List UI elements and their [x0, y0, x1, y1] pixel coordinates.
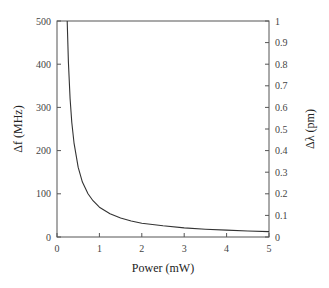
data-line	[67, 21, 269, 232]
y-right-tick-label: 0.6	[275, 102, 288, 113]
y-tick-label: 300	[36, 102, 51, 113]
y-right-axis-title: Δλ (pm)	[303, 109, 317, 149]
y-right-tick-label: 1	[275, 16, 280, 27]
y-right-tick-label: 0	[275, 232, 280, 243]
y-right-tick-label: 0.8	[275, 59, 288, 70]
x-tick-label: 1	[97, 243, 102, 254]
y-axis-title: Δf (MHz)	[11, 105, 25, 152]
y-tick-label: 0	[46, 232, 51, 243]
y-right-tick-label: 0.3	[275, 167, 288, 178]
plot-frame	[57, 21, 269, 237]
x-tick-label: 0	[55, 243, 60, 254]
chart: 012345010020030040050000.10.20.30.40.50.…	[0, 0, 329, 288]
y-right-tick-label: 0.1	[275, 210, 288, 221]
y-tick-label: 100	[36, 188, 51, 199]
y-tick-label: 400	[36, 59, 51, 70]
x-axis-title: Power (mW)	[132, 261, 194, 275]
y-right-tick-label: 0.2	[275, 188, 288, 199]
y-right-tick-label: 0.5	[275, 124, 288, 135]
y-right-tick-label: 0.4	[275, 145, 288, 156]
x-tick-label: 4	[224, 243, 229, 254]
y-tick-label: 200	[36, 145, 51, 156]
x-tick-label: 5	[267, 243, 272, 254]
y-tick-label: 500	[36, 16, 51, 27]
x-tick-label: 3	[182, 243, 187, 254]
y-right-tick-label: 0.9	[275, 37, 288, 48]
x-tick-label: 2	[139, 243, 144, 254]
y-right-tick-label: 0.7	[275, 80, 288, 91]
